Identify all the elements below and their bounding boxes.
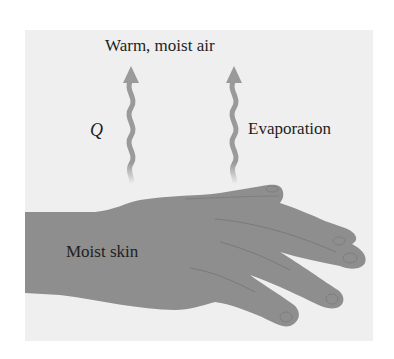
heat-arrow-icon bbox=[123, 66, 139, 184]
warm-moist-air-label: Warm, moist air bbox=[105, 36, 215, 56]
evaporation-arrow-icon bbox=[226, 66, 242, 184]
moist-skin-label: Moist skin bbox=[66, 242, 138, 262]
evaporation-label: Evaporation bbox=[248, 119, 331, 139]
heat-q-label: Q bbox=[90, 120, 103, 141]
